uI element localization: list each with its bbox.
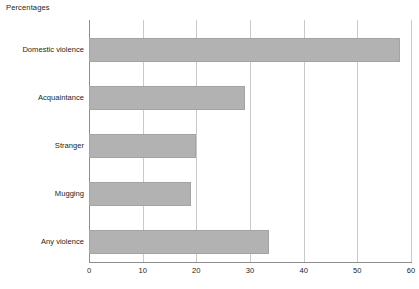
bar-row (89, 38, 411, 62)
bar (89, 230, 269, 254)
category-label: Any violence (0, 237, 84, 247)
bar (89, 182, 191, 206)
bar-row (89, 134, 411, 158)
x-tick-label: 20 (181, 266, 211, 276)
x-tick-label: 50 (342, 266, 372, 276)
plot-area (89, 20, 411, 262)
bar (89, 38, 400, 62)
chart-title: Percentages (6, 3, 50, 13)
x-axis-line (89, 262, 412, 263)
bars-group (89, 20, 411, 262)
x-tick-label: 10 (128, 266, 158, 276)
x-tick-label: 30 (235, 266, 265, 276)
bar-row (89, 182, 411, 206)
gridline-60 (411, 20, 412, 262)
x-tick-label: 60 (396, 266, 419, 276)
category-label: Mugging (0, 189, 84, 199)
bar (89, 134, 196, 158)
category-label: Acquaintance (0, 93, 84, 103)
category-label: Domestic violence (0, 45, 84, 55)
bar-chart: Percentages Domestic violenceAcquaintanc… (0, 0, 419, 289)
x-tick-label: 0 (74, 266, 104, 276)
bar-row (89, 86, 411, 110)
bar-row (89, 230, 411, 254)
category-label: Stranger (0, 141, 84, 151)
x-tick-label: 40 (289, 266, 319, 276)
bar (89, 86, 245, 110)
